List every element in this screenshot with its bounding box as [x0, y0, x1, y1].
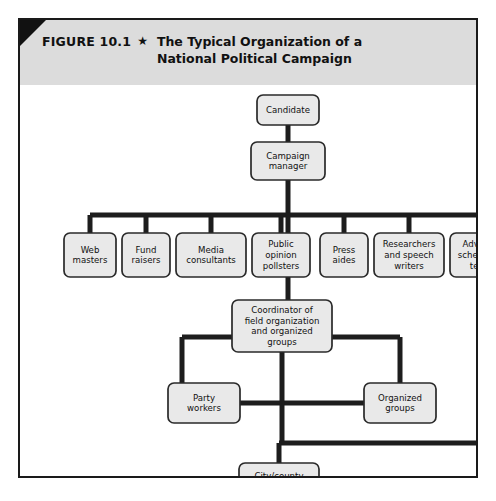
node-label-fieldoffice: City/countyfieldoffices [254, 471, 303, 476]
figure-title: The Typical Organization of a National P… [157, 33, 412, 67]
org-chart-svg: CandidateCampaignmanagerWebmastersFundra… [20, 85, 476, 476]
node-layer: CandidateCampaignmanagerWebmastersFundra… [64, 95, 476, 476]
node-fieldoffice[interactable]: City/countyfieldoffices [239, 463, 319, 476]
node-web[interactable]: Webmasters [64, 233, 116, 277]
node-label-manager: Campaignmanager [266, 150, 310, 171]
org-chart: CandidateCampaignmanagerWebmastersFundra… [20, 85, 476, 476]
figure-header-band: FIGURE 10.1 ★ The Typical Organization o… [20, 20, 476, 85]
node-media[interactable]: Mediaconsultants [176, 233, 246, 277]
node-organized[interactable]: Organizedgroups [364, 383, 436, 423]
figure-number: FIGURE 10.1 [42, 33, 131, 50]
star-icon: ★ [137, 33, 148, 50]
node-advance[interactable]: Advanceschedulingteam [450, 233, 476, 277]
figure-title-row: FIGURE 10.1 ★ The Typical Organization o… [42, 33, 466, 67]
node-party[interactable]: Partyworkers [168, 383, 240, 423]
node-coordinator[interactable]: Coordinator offield organizationand orga… [232, 300, 332, 352]
node-manager[interactable]: Campaignmanager [251, 142, 325, 180]
node-fund[interactable]: Fundraisers [122, 233, 170, 277]
node-label-candidate: Candidate [266, 105, 310, 115]
node-press[interactable]: Pressaides [320, 233, 368, 277]
node-label-press: Pressaides [333, 244, 356, 265]
figure-page: FIGURE 10.1 ★ The Typical Organization o… [0, 0, 496, 501]
node-research[interactable]: Researchersand speechwriters [374, 233, 444, 277]
node-pollsters[interactable]: Publicopinionpollsters [252, 233, 310, 277]
node-candidate[interactable]: Candidate [257, 95, 319, 125]
figure-frame: FIGURE 10.1 ★ The Typical Organization o… [18, 18, 478, 478]
